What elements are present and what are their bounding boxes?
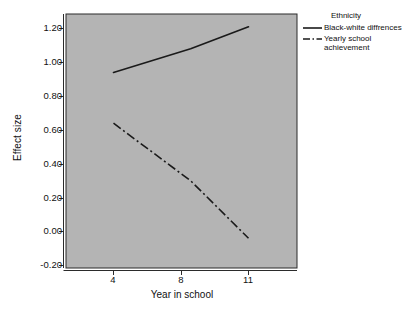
- y-tick-label: 0.40: [28, 159, 62, 169]
- legend-title: Ethnicity: [305, 11, 387, 20]
- x-tick-label-group: 4 8 11: [0, 274, 404, 288]
- x-tick-label: 8: [161, 274, 201, 285]
- y-tick-label: 0.80: [28, 91, 62, 101]
- y-tick-label: 1.20: [28, 23, 62, 33]
- legend-label: Yearly school: [324, 34, 371, 43]
- legend-item-black-white-diffrences: Black-white diffrences: [303, 23, 402, 33]
- legend-label: Black-white diffrences: [324, 23, 402, 33]
- chart-figure: Effect size 1.20 1.00 0.80 0.60 0.40 0.2…: [0, 0, 404, 315]
- y-tick-label: 0.20: [28, 193, 62, 203]
- y-tick-label: 1.00: [28, 57, 62, 67]
- y-tick-label: -0.20: [28, 260, 62, 270]
- x-tick-label: 11: [228, 274, 268, 285]
- legend: Ethnicity Black-white diffrences Yearly …: [303, 11, 402, 54]
- legend-solid-line-icon: [303, 23, 322, 32]
- legend-label-continued: achievement: [324, 43, 369, 52]
- x-tick-label: 4: [93, 274, 133, 285]
- legend-item-yearly-school-achievement: Yearly school achievement: [303, 34, 402, 53]
- y-tick-label: 0.60: [28, 125, 62, 135]
- y-tick-label: 0.00: [28, 226, 62, 236]
- y-axis-label: Effect size: [12, 58, 23, 218]
- y-tick-label-group: 1.20 1.00 0.80 0.60 0.40 0.20 0.00 -0.20: [24, 0, 62, 315]
- x-axis-label: Year in school: [66, 289, 298, 300]
- legend-dashdot-line-icon: [303, 34, 322, 43]
